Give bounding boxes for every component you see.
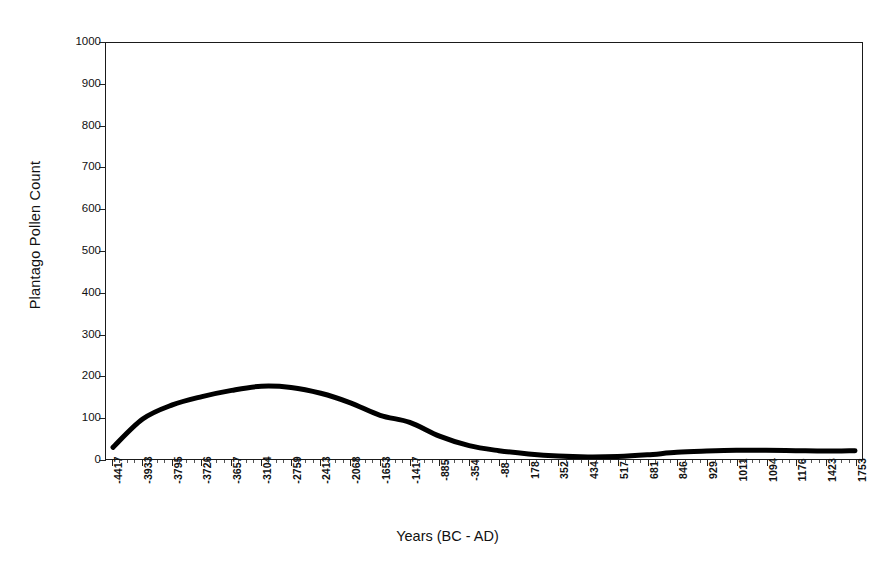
x-axis-tick-label-text: -3795: [172, 456, 184, 483]
x-axis-tick-label-text: -1417: [410, 456, 422, 483]
y-axis-tick-mark: [99, 251, 106, 252]
x-axis-minor-tick-mark: [305, 460, 306, 463]
y-axis-tick-mark: [99, 209, 106, 210]
x-axis-minor-tick-mark: [640, 460, 641, 463]
x-axis-tick-label-text: -1653: [380, 456, 392, 483]
x-axis-tick-mark: [261, 460, 262, 466]
x-axis-tick-mark: [172, 460, 173, 466]
x-axis-tick-mark: [320, 460, 321, 466]
x-axis-minor-tick-mark: [402, 460, 403, 463]
y-axis-tick-mark: [99, 335, 106, 336]
x-axis-tick-label: -3657: [224, 468, 238, 524]
x-axis-tick-label-text: -3933: [142, 456, 154, 483]
x-axis-minor-tick-mark: [224, 460, 225, 463]
x-axis-minor-tick-mark: [551, 460, 552, 463]
x-axis-minor-tick-mark: [849, 460, 850, 463]
x-axis-tick-label-text: 1176: [796, 458, 808, 481]
x-axis-minor-tick-mark: [313, 460, 314, 463]
x-axis-minor-tick-mark: [670, 460, 671, 463]
x-axis-minor-tick-mark: [603, 460, 604, 463]
x-axis-tick-mark: [439, 460, 440, 466]
x-axis-tick-label: 434: [581, 468, 595, 524]
x-axis-tick-label-text: -2759: [291, 456, 303, 483]
x-axis-minor-tick-mark: [811, 460, 812, 463]
x-axis-minor-tick-mark: [447, 460, 448, 463]
x-axis-tick-mark: [142, 460, 143, 466]
x-axis-tick-mark: [826, 460, 827, 466]
x-axis-minor-tick-mark: [521, 460, 522, 463]
x-axis-tick-mark: [707, 460, 708, 466]
x-axis-tick-mark: [856, 460, 857, 466]
x-axis-minor-tick-mark: [276, 460, 277, 463]
y-axis-tick-mark: [99, 293, 106, 294]
x-axis-minor-tick-mark: [819, 460, 820, 463]
x-axis-minor-tick-mark: [789, 460, 790, 463]
x-axis-minor-tick-mark: [157, 460, 158, 463]
x-axis-tick-label: -885: [432, 468, 446, 524]
x-axis-tick-label: 1176: [789, 468, 803, 524]
x-axis-tick-label: -1417: [403, 468, 417, 524]
x-axis-tick-label: 1423: [819, 468, 833, 524]
x-axis-minor-tick-mark: [454, 460, 455, 463]
x-axis-minor-tick-mark: [692, 460, 693, 463]
x-axis-tick-label-text: 434: [588, 461, 600, 479]
x-axis-tick-mark: [231, 460, 232, 466]
x-axis-tick-label: -3795: [165, 468, 179, 524]
x-axis-minor-tick-mark: [834, 460, 835, 463]
x-axis-tick-label-text: 929: [707, 461, 719, 479]
x-axis-tick-label-text: -3657: [231, 456, 243, 483]
x-axis-minor-tick-mark: [633, 460, 634, 463]
x-axis-tick-mark: [291, 460, 292, 466]
x-axis-tick-mark: [796, 460, 797, 466]
x-axis-minor-tick-mark: [625, 460, 626, 463]
x-axis-tick-label: 846: [670, 468, 684, 524]
x-axis-tick-label: -354: [462, 468, 476, 524]
x-axis-minor-tick-mark: [372, 460, 373, 463]
x-axis-minor-tick-mark: [804, 460, 805, 463]
x-axis-minor-tick-mark: [335, 460, 336, 463]
x-axis-tick-label: -3933: [135, 468, 149, 524]
x-axis-minor-tick-mark: [328, 460, 329, 463]
x-axis-minor-tick-mark: [506, 460, 507, 463]
x-axis-tick-label: -1653: [373, 468, 387, 524]
x-axis-minor-tick-mark: [685, 460, 686, 463]
x-axis-tick-label-text: -354: [469, 459, 481, 480]
x-axis-tick-mark: [112, 460, 113, 466]
x-axis-minor-tick-mark: [387, 460, 388, 463]
x-axis-tick-label-text: -2068: [350, 456, 362, 483]
x-axis-minor-tick-mark: [700, 460, 701, 463]
x-axis-minor-tick-mark: [179, 460, 180, 463]
x-axis-minor-tick-mark: [782, 460, 783, 463]
x-axis-minor-tick-mark: [253, 460, 254, 463]
y-axis-title: Plantago Pollen Count: [22, 0, 48, 470]
x-axis-tick-mark: [677, 460, 678, 466]
x-axis-minor-tick-mark: [119, 460, 120, 463]
x-axis-minor-tick-mark: [722, 460, 723, 463]
x-axis-minor-tick-mark: [663, 460, 664, 463]
y-axis-tick-mark: [99, 42, 106, 43]
y-axis-tick-mark: [99, 167, 106, 168]
x-axis-tick-mark: [588, 460, 589, 466]
x-axis-tick-label-text: -4417: [112, 456, 124, 483]
x-axis-minor-tick-mark: [566, 460, 567, 463]
plot-area: [105, 42, 863, 460]
x-axis-tick-label: 178: [522, 468, 536, 524]
y-axis-tick-label: 700: [57, 162, 101, 174]
x-axis-minor-tick-mark: [134, 460, 135, 463]
x-axis-minor-tick-mark: [477, 460, 478, 463]
y-axis-tick-label: 300: [57, 329, 101, 341]
pollen-count-line-series: [106, 43, 862, 459]
x-axis-minor-tick-mark: [514, 460, 515, 463]
x-axis-tick-label: -2759: [284, 468, 298, 524]
x-axis-tick-label: -3726: [194, 468, 208, 524]
chart-figure: Plantago Pollen Count 010020030040050060…: [0, 0, 895, 567]
x-axis-tick-mark: [618, 460, 619, 466]
y-axis-tick-mark: [99, 460, 106, 461]
x-axis-minor-tick-mark: [715, 460, 716, 463]
x-axis-tick-label: 517: [611, 468, 625, 524]
x-axis-tick-mark: [767, 460, 768, 466]
x-axis-tick-label-text: 681: [648, 461, 660, 479]
x-axis-tick-label-text: 517: [618, 461, 630, 479]
x-axis-tick-label-text: -3726: [201, 456, 213, 483]
x-axis-tick-labels: -4417-3933-3795-3726-3657-3104-2759-2413…: [0, 468, 895, 526]
